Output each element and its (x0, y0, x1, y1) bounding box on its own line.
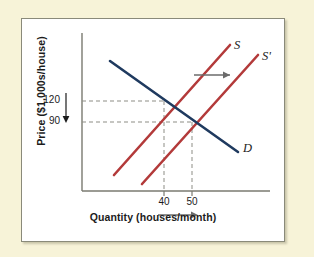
price-fall-arrow (63, 93, 70, 123)
x-axis-title: Quantity (houses/month) (22, 211, 284, 223)
figure-card: 120 90 40 50 S S' D Price ($1,000s/house… (21, 18, 285, 242)
figure-container: 120 90 40 50 S S' D Price ($1,000s/house… (0, 0, 314, 257)
curve-label-s: S (234, 38, 240, 53)
chart-svg (22, 19, 284, 241)
chart-plot-area: 120 90 40 50 S S' D Price ($1,000s/house… (22, 19, 284, 241)
y-axis-title: Price ($1,000s/house) (35, 16, 47, 166)
supply-curve-s (114, 45, 230, 175)
curve-label-s-prime: S' (262, 49, 271, 64)
x-tick-label-40: 40 (151, 196, 177, 207)
x-tick-label-50: 50 (179, 196, 205, 207)
curve-label-d: D (243, 141, 252, 156)
